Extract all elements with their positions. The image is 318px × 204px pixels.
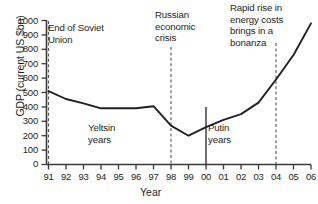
- annotation-yeltsin-years: Yeltsin years: [88, 122, 115, 145]
- annotation-russian-economic-crisis: Russian economic crisis: [155, 9, 195, 44]
- annotation-energy-line-1: Rapid rise in: [230, 2, 283, 14]
- xtick-label-01: 01: [216, 171, 232, 182]
- annotation-russian-line-1: Russian: [155, 9, 195, 21]
- xtick-label-97: 97: [146, 171, 162, 182]
- annotation-end-of-soviet-union: End of Soviet Union: [48, 22, 104, 45]
- xtick-label-02: 02: [233, 171, 249, 182]
- annotation-russian-line-3: crisis: [155, 32, 195, 44]
- xtick-label-93: 93: [76, 171, 92, 182]
- xtick-label-03: 03: [251, 171, 267, 182]
- annotation-energy-line-4: bonanza: [230, 37, 283, 49]
- annotation-putin-line-1: Putin: [208, 122, 231, 134]
- annotation-putin-line-2: years: [208, 134, 231, 146]
- xtick-label-95: 95: [111, 171, 127, 182]
- xtick-label-96: 96: [128, 171, 144, 182]
- ytick-label-0: 0: [11, 158, 38, 169]
- annotation-soviet-line-2: Union: [48, 34, 104, 46]
- xtick-label-91: 91: [41, 171, 57, 182]
- annotation-energy-bonanza: Rapid rise in energy costs brings in a b…: [230, 2, 283, 48]
- xtick-label-94: 94: [93, 171, 109, 182]
- annotation-russian-line-2: economic: [155, 21, 195, 33]
- xtick-label-92: 92: [58, 171, 74, 182]
- annotation-putin-years: Putin years: [208, 122, 231, 145]
- annotation-energy-line-2: energy costs: [230, 14, 283, 26]
- xtick-label-05: 05: [286, 171, 302, 182]
- annotation-soviet-line-1: End of Soviet: [48, 22, 104, 34]
- xtick-label-04: 04: [268, 171, 284, 182]
- ytick-label-200: 200: [11, 130, 38, 141]
- x-axis-label: Year: [140, 186, 161, 198]
- annotation-energy-line-3: brings in a: [230, 25, 283, 37]
- xtick-label-99: 99: [181, 171, 197, 182]
- xtick-label-00: 00: [198, 171, 214, 182]
- y-axis-label: GDP (current US $bn): [14, 1, 26, 131]
- annotation-yeltsin-line-1: Yeltsin: [88, 122, 115, 134]
- gdp-line-chart: 1000 900 800 700 600 500 400 300 200 100…: [0, 0, 318, 204]
- ytick-label-100: 100: [11, 144, 38, 155]
- xtick-label-98: 98: [163, 171, 179, 182]
- annotation-yeltsin-line-2: years: [88, 134, 115, 146]
- xtick-label-06: 06: [303, 171, 318, 182]
